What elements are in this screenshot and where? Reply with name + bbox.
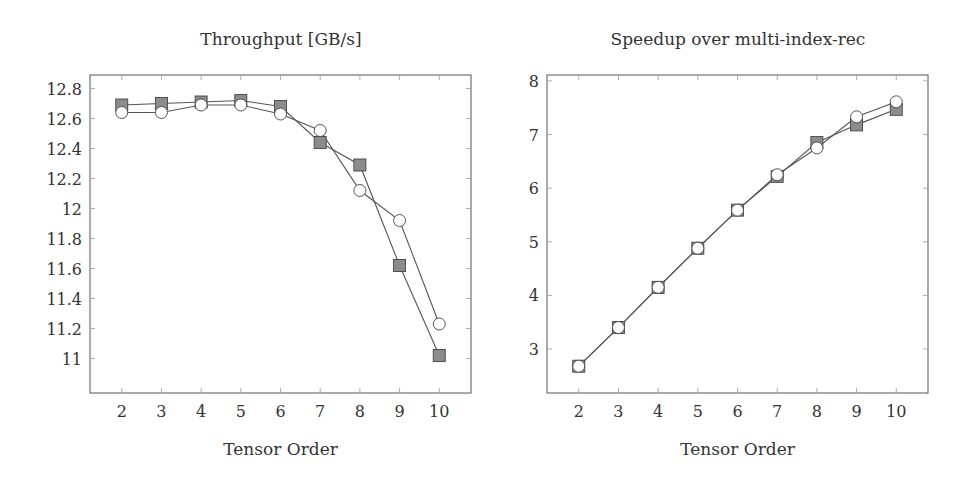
throughput-chart: Throughput [GB/s]23456789101111.211.411.… — [46, 29, 471, 459]
circle-marker — [890, 96, 902, 108]
chart-title: Throughput [GB/s] — [200, 29, 361, 49]
x-tick-label: 7 — [772, 402, 782, 421]
chart-title: Speedup over multi-index-rec — [611, 29, 866, 49]
series-line — [122, 101, 440, 356]
figure: Throughput [GB/s]23456789101111.211.411.… — [0, 0, 964, 478]
y-tick-label: 12 — [62, 200, 82, 219]
y-tick-label: 6 — [529, 179, 539, 198]
y-tick-label: 11.2 — [46, 320, 82, 339]
y-tick-label: 8 — [529, 72, 539, 91]
x-tick-label: 6 — [732, 402, 742, 421]
circle-marker — [771, 169, 783, 181]
plot-frame — [547, 75, 928, 393]
circle-marker — [433, 318, 445, 330]
x-tick-label: 3 — [613, 402, 623, 421]
y-tick-label: 7 — [529, 126, 539, 145]
x-tick-label: 9 — [851, 402, 861, 421]
x-tick-label: 5 — [693, 402, 703, 421]
y-tick-label: 12.6 — [46, 110, 82, 129]
x-tick-label: 2 — [574, 402, 584, 421]
circle-marker — [692, 242, 704, 254]
y-tick-label: 11.6 — [46, 260, 82, 279]
x-tick-label: 7 — [315, 402, 325, 421]
square-marker — [314, 137, 326, 149]
square-marker — [354, 159, 366, 171]
circle-marker — [612, 322, 624, 334]
speedup-chart: Speedup over multi-index-rec234567891034… — [529, 29, 928, 459]
circle-marker — [394, 215, 406, 227]
circle-marker — [155, 107, 167, 119]
y-tick-label: 11 — [62, 350, 82, 369]
y-tick-label: 3 — [529, 340, 539, 359]
x-axis-label: Tensor Order — [223, 439, 339, 459]
x-tick-label: 6 — [275, 402, 285, 421]
square-marker — [433, 350, 445, 362]
x-tick-label: 9 — [394, 402, 404, 421]
plot-frame — [90, 75, 471, 393]
series-line — [122, 105, 440, 324]
circle-marker — [354, 185, 366, 197]
y-tick-label: 12.4 — [46, 140, 82, 159]
circle-marker — [275, 108, 287, 120]
circle-marker — [573, 360, 585, 372]
circle-marker — [235, 99, 247, 111]
circle-marker — [314, 125, 326, 137]
x-tick-label: 2 — [117, 402, 127, 421]
x-tick-label: 8 — [355, 402, 365, 421]
y-tick-label: 11.8 — [46, 230, 82, 249]
series-line — [579, 109, 897, 366]
circle-marker — [811, 142, 823, 154]
circle-marker — [116, 107, 128, 119]
series-line — [579, 102, 897, 366]
y-tick-label: 12.8 — [46, 80, 82, 99]
circle-marker — [195, 99, 207, 111]
y-tick-label: 12.2 — [46, 170, 82, 189]
x-tick-label: 4 — [196, 402, 206, 421]
x-tick-label: 8 — [812, 402, 822, 421]
square-marker — [394, 260, 406, 272]
circle-marker — [851, 111, 863, 123]
x-axis-label: Tensor Order — [680, 439, 796, 459]
x-tick-label: 3 — [156, 402, 166, 421]
y-tick-label: 5 — [529, 233, 539, 252]
x-tick-label: 4 — [653, 402, 663, 421]
x-tick-label: 10 — [886, 402, 906, 421]
x-tick-label: 10 — [429, 402, 449, 421]
y-tick-label: 4 — [529, 286, 539, 305]
circle-marker — [732, 204, 744, 216]
y-tick-label: 11.4 — [46, 290, 82, 309]
circle-marker — [652, 281, 664, 293]
x-tick-label: 5 — [236, 402, 246, 421]
